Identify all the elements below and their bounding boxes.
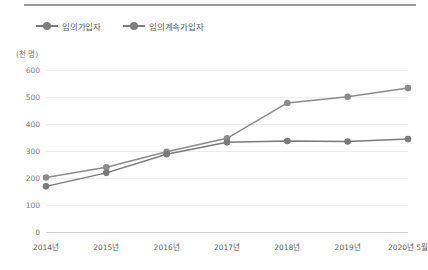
chart-legend: 임의가입자 임의계속가입자	[36, 19, 204, 33]
top-divider	[24, 4, 416, 6]
y-tick-label: 300	[10, 147, 40, 156]
x-tick-label: 2018년	[274, 241, 300, 252]
data-point[interactable]	[284, 138, 291, 145]
data-point[interactable]	[344, 138, 351, 145]
y-tick-label: 500	[10, 93, 40, 102]
y-tick-label: 400	[10, 120, 40, 129]
data-point[interactable]	[163, 151, 170, 158]
legend-marker-icon-0	[36, 22, 58, 31]
plot-area	[46, 70, 408, 232]
x-axis-ticks: 2014년2015년2016년2017년2018년2019년2020년 5월	[46, 241, 408, 255]
y-axis-ticks: 6005004003002001000	[8, 70, 40, 232]
x-axis-line	[46, 232, 408, 233]
y-tick-label: 100	[10, 201, 40, 210]
y-tick-label: 200	[10, 174, 40, 183]
legend-item-1[interactable]: 임의계속가입자	[123, 20, 204, 32]
data-point[interactable]	[43, 183, 50, 190]
x-tick-label: 2015년	[93, 241, 119, 252]
x-tick-label: 2014년	[33, 241, 59, 252]
x-tick-label: 2020년 5월	[388, 241, 428, 252]
data-point[interactable]	[43, 174, 50, 181]
data-point[interactable]	[405, 136, 412, 143]
data-point[interactable]	[344, 93, 351, 100]
x-tick-label: 2019년	[335, 241, 361, 252]
legend-marker-icon-1	[123, 22, 145, 31]
data-point[interactable]	[405, 85, 412, 92]
data-point[interactable]	[224, 139, 231, 146]
x-tick-label: 2017년	[214, 241, 240, 252]
legend-item-0[interactable]: 임의가입자	[36, 20, 101, 32]
legend-label-1: 임의계속가입자	[149, 20, 204, 32]
y-tick-label: 0	[10, 228, 40, 237]
x-tick-label: 2016년	[154, 241, 180, 252]
y-axis-unit-label: (천 명)	[16, 48, 38, 59]
legend-label-0: 임의가입자	[62, 20, 101, 32]
data-point[interactable]	[103, 170, 110, 177]
series-line-1	[46, 139, 408, 186]
y-tick-label: 600	[10, 66, 40, 75]
series-line-0	[46, 88, 408, 177]
series-container	[46, 70, 408, 232]
data-point[interactable]	[103, 164, 110, 171]
data-point[interactable]	[284, 100, 291, 107]
